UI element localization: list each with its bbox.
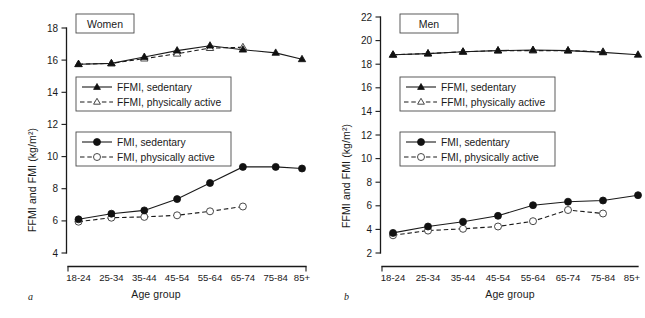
y-tick-label: 4 [52, 248, 58, 259]
x-tick-label: 25-34 [416, 272, 441, 283]
legend-label-ffmi-active-a: FFMI, physically active [117, 97, 221, 108]
legend-swatch-fmi-active-marker [418, 154, 425, 161]
x-tick-label: 35-44 [132, 272, 157, 283]
y-tick-label: 12 [47, 119, 59, 130]
panel-title-a: Women [87, 18, 123, 30]
x-axis-ticks-a [68, 267, 306, 272]
markers-ffmi-sedentary-b [389, 46, 641, 57]
y-tick-label: 4 [366, 224, 372, 235]
y-tick-label: 8 [52, 183, 58, 194]
x-tick-label: 65-74 [231, 272, 256, 283]
legend-label-ffmi-active-b: FFMI, physically active [441, 97, 545, 108]
x-tick-label: 18-24 [381, 272, 406, 283]
legend-swatch-fmi-sedentary-marker [94, 139, 101, 146]
x-tick-label: 75-84 [263, 272, 288, 283]
markers-fmi-active-b [390, 207, 607, 239]
x-tick-label: 75-84 [591, 272, 616, 283]
panel-title-b: Men [419, 18, 440, 30]
legend-fmi-a: FMI, sedentary FMI, physically active [76, 132, 231, 166]
y-axis-ticks-b [376, 17, 381, 253]
y-tick-label: 8 [366, 177, 372, 188]
legend-label-fmi-sedentary-a: FMI, sedentary [117, 137, 187, 148]
panel-men: 22 20 18 16 14 12 10 8 6 4 2 18-24 25-34… [322, 0, 645, 318]
x-tick-label: 65-74 [556, 272, 581, 283]
legend-ffmi-a: FFMI, sedentary FFMI, physically active [76, 77, 231, 111]
panel-letter-a: a [28, 291, 33, 302]
legend-label-ffmi-sedentary-a: FFMI, sedentary [117, 82, 193, 93]
y-tick-label: 14 [47, 87, 59, 98]
y-tick-label: 16 [47, 55, 59, 66]
legend-label-ffmi-sedentary-b: FFMI, sedentary [441, 82, 517, 93]
x-tick-label: 25-34 [99, 272, 124, 283]
y-tick-label: 18 [47, 23, 59, 34]
x-tick-label: 35-44 [451, 272, 476, 283]
x-tick-label: 85+ [624, 272, 641, 283]
x-tick-label: 18-24 [66, 272, 91, 283]
y-axis-title-b: FFMI and FMI (kg/m²) [340, 124, 352, 228]
series-ffmi-active-line-a [79, 47, 243, 64]
y-tick-label: 18 [361, 59, 373, 70]
x-tick-label: 85+ [294, 272, 311, 283]
x-tick-label: 55-64 [521, 272, 546, 283]
legend-fmi-b: FMI, sedentary FMI, physically active [400, 132, 555, 166]
x-axis-title-a: Age group [131, 288, 180, 300]
panel-letter-b: b [344, 291, 349, 302]
legend-label-fmi-active-a: FMI, physically active [117, 152, 215, 163]
panel-title-box-b: Men [400, 14, 458, 33]
y-axis-tick-labels-a: 18 16 14 12 10 8 6 4 [47, 23, 59, 259]
panel-men-plot: 22 20 18 16 14 12 10 8 6 4 2 18-24 25-34… [322, 0, 645, 318]
y-tick-label: 16 [361, 82, 373, 93]
x-axis-title-b: Age group [485, 288, 534, 300]
panel-women-plot: 18 16 14 12 10 8 6 4 18-24 25-34 35-44 4… [0, 0, 322, 318]
y-tick-label: 10 [47, 151, 59, 162]
legend-ffmi-b: FFMI, sedentary FFMI, physically active [400, 77, 555, 111]
legend-swatch-fmi-active-marker [94, 154, 101, 161]
y-tick-label: 20 [361, 35, 373, 46]
legend-swatch-fmi-sedentary-marker [418, 139, 425, 146]
y-tick-label: 12 [361, 130, 373, 141]
y-axis-title-a: FFMI and FMI (kg/m²) [26, 128, 38, 232]
y-axis-tick-labels-b: 22 20 18 16 14 12 10 8 6 4 2 [361, 12, 373, 259]
y-axis-ticks-a [62, 28, 67, 253]
markers-fmi-active-a [75, 203, 246, 225]
y-tick-label: 10 [361, 153, 373, 164]
legend-label-fmi-sedentary-b: FMI, sedentary [441, 137, 511, 148]
y-tick-label: 6 [366, 200, 372, 211]
x-tick-label: 45-54 [165, 272, 190, 283]
legend-label-fmi-active-b: FMI, physically active [441, 152, 539, 163]
series-fmi-active-line-a [79, 207, 243, 222]
markers-ffmi-sedentary-a [75, 42, 306, 67]
y-tick-label: 6 [52, 215, 58, 226]
y-tick-label: 2 [366, 248, 372, 259]
x-tick-label: 45-54 [486, 272, 511, 283]
y-tick-label: 14 [361, 106, 373, 117]
x-tick-label: 55-64 [198, 272, 223, 283]
y-tick-label: 22 [361, 12, 373, 23]
x-axis-tick-labels-a: 18-24 25-34 35-44 45-54 55-64 65-74 75-8… [66, 272, 310, 283]
figure-container: 18 16 14 12 10 8 6 4 18-24 25-34 35-44 4… [0, 0, 645, 318]
panel-title-box-a: Women [76, 14, 134, 33]
x-axis-tick-labels-b: 18-24 25-34 35-44 45-54 55-64 65-74 75-8… [381, 272, 641, 283]
panel-women: 18 16 14 12 10 8 6 4 18-24 25-34 35-44 4… [0, 0, 322, 318]
